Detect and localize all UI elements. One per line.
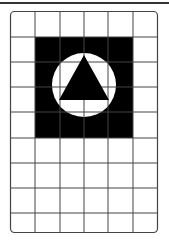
grid-figure [0, 0, 169, 247]
